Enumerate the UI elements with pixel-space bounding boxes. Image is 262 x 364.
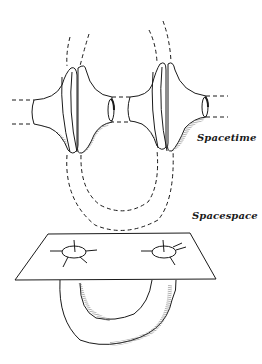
spacespace-panel [15,233,216,344]
spacetime-panel [12,21,228,230]
spacespace-label: Spacespace [192,210,258,221]
spacetime-label: Spacetime [197,132,256,143]
flat-sheet [15,233,216,280]
left-wormhole-mouth [32,66,114,153]
wormhole-diagram [0,0,262,364]
right-wormhole-mouth [128,63,208,151]
